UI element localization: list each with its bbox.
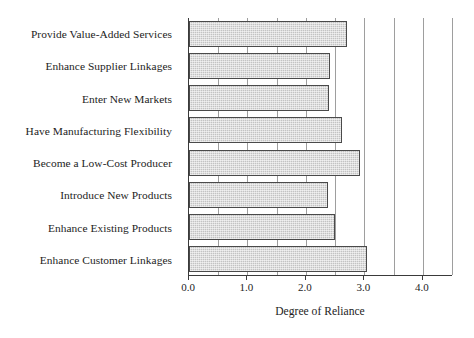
bar-slot [189, 50, 452, 82]
bar-slot [189, 147, 452, 179]
x-tick-label: 4.0 [415, 281, 429, 293]
x-tick [305, 276, 306, 280]
category-label: Enhance Existing Products [0, 212, 180, 244]
x-tick-label: 0.0 [181, 281, 195, 293]
bar [189, 117, 342, 143]
x-tick-label: 1.0 [240, 281, 254, 293]
x-tick [363, 276, 364, 280]
x-axis-tick-labels: 0.01.02.03.04.0 [188, 281, 452, 297]
bar [189, 85, 329, 111]
x-tick-label: 2.0 [298, 281, 312, 293]
bar-slot [189, 114, 452, 146]
category-label: Have Manufacturing Flexibility [0, 115, 180, 147]
x-tick [422, 276, 423, 280]
plot-area [188, 18, 452, 276]
x-tick [246, 276, 247, 280]
bar-chart: Provide Value-Added Services Enhance Sup… [0, 0, 474, 338]
x-axis-title: Degree of Reliance [188, 305, 452, 318]
x-tick-label: 3.0 [356, 281, 370, 293]
category-label: Enhance Customer Linkages [0, 244, 180, 276]
bar-slot [189, 243, 452, 275]
category-label: Introduce New Products [0, 179, 180, 211]
bar [189, 53, 330, 79]
category-label: Enhance Supplier Linkages [0, 50, 180, 82]
category-label: Become a Low-Cost Producer [0, 147, 180, 179]
bar-slot [189, 211, 452, 243]
bar [189, 150, 360, 176]
bar-slot [189, 82, 452, 114]
category-label: Enter New Markets [0, 83, 180, 115]
x-tick [188, 276, 189, 280]
bar [189, 182, 328, 208]
bar-series [189, 18, 452, 275]
bar [189, 214, 335, 240]
bar [189, 21, 347, 47]
bar-slot [189, 18, 452, 50]
gridline [452, 18, 453, 275]
bar-slot [189, 179, 452, 211]
bar [189, 246, 367, 272]
category-label: Provide Value-Added Services [0, 18, 180, 50]
category-axis: Provide Value-Added Services Enhance Sup… [0, 18, 180, 276]
